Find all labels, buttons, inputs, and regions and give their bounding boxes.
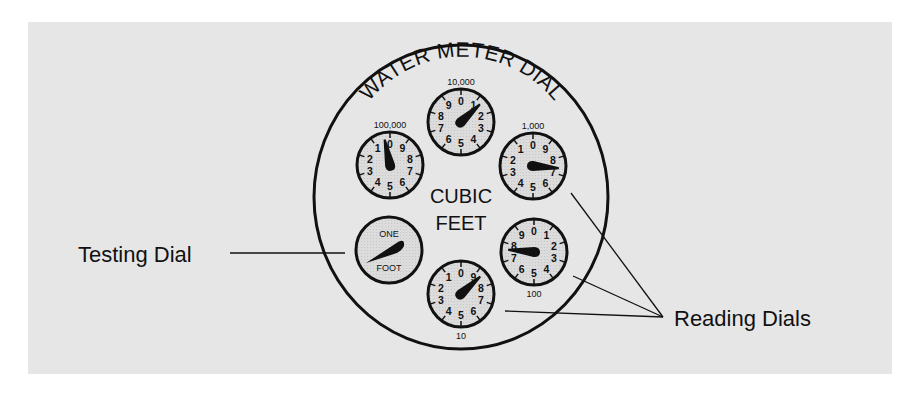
dial-digit: 2 — [551, 240, 557, 252]
dial-digit: 0 — [458, 267, 464, 279]
reading-dials-callout-label: Reading Dials — [674, 306, 811, 331]
dial-digit: 6 — [470, 305, 476, 317]
testing-dial-callout-label: Testing Dial — [78, 242, 192, 267]
dial-10000: 012345678910,000 — [428, 77, 494, 155]
reading-dials: 0123456789100,000012345678910,0000123456… — [357, 77, 567, 341]
dial-1000: 01234567891,000 — [500, 121, 566, 199]
dial-digit: 8 — [407, 153, 413, 165]
dial-digit: 9 — [399, 142, 405, 154]
dial-digit: 2 — [478, 110, 484, 122]
dial-digit: 1 — [518, 143, 524, 155]
dial-scale-label: 1,000 — [522, 121, 545, 131]
testing-dial-top-label: ONE — [379, 229, 399, 239]
dial-digit: 7 — [438, 122, 444, 134]
dial-digit: 6 — [519, 263, 525, 275]
dial-digit: 3 — [478, 122, 484, 134]
dial-digit: 5 — [387, 180, 393, 192]
dial-digit: 4 — [470, 133, 476, 145]
dial-digit: 8 — [550, 154, 556, 166]
reading-leader-10 — [505, 311, 663, 317]
dial-digit: 0 — [531, 225, 537, 237]
dial-digit: 4 — [446, 305, 452, 317]
dial-digit: 6 — [399, 176, 405, 188]
dial-100: 0123456789100 — [501, 219, 567, 299]
dial-digit: 6 — [542, 177, 548, 189]
dial-digit: 3 — [367, 165, 373, 177]
dial-digit: 7 — [511, 252, 517, 264]
dial-digit: 2 — [438, 282, 444, 294]
dial-digit: 2 — [510, 154, 516, 166]
dial-scale-label: 100,000 — [374, 120, 407, 130]
dial-digit: 6 — [446, 133, 452, 145]
dial-digit: 3 — [510, 166, 516, 178]
center-label-line1: CUBIC — [430, 185, 492, 207]
dial-digit: 1 — [446, 271, 452, 283]
dial-scale-label: 10,000 — [447, 77, 475, 87]
testing-dial: ONE FOOT — [356, 217, 422, 283]
dial-digit: 5 — [458, 137, 464, 149]
dial-digit: 9 — [446, 99, 452, 111]
dial-digit: 9 — [542, 143, 548, 155]
dial-100000: 0123456789100,000 — [357, 120, 423, 198]
dial-digit: 4 — [518, 177, 524, 189]
dial-digit: 8 — [478, 282, 484, 294]
dial-digit: 9 — [519, 229, 525, 241]
dial-scale-label: 100 — [526, 289, 541, 299]
dial-digit: 1 — [543, 229, 549, 241]
dial-digit: 5 — [458, 309, 464, 321]
dial-digit: 1 — [375, 142, 381, 154]
dial-digit: 5 — [530, 181, 536, 193]
dial-digit: 3 — [551, 252, 557, 264]
dial-scale-label: 10 — [456, 331, 466, 341]
dial-digit: 0 — [530, 139, 536, 151]
dial-digit: 3 — [438, 294, 444, 306]
center-label-line2: FEET — [435, 212, 486, 234]
dial-digit: 4 — [543, 263, 549, 275]
dial-10: 012345678910 — [428, 261, 494, 341]
reading-leader-100 — [573, 276, 663, 317]
dial-digit: 5 — [531, 267, 537, 279]
water-meter-diagram: WATER METER DIAL CUBIC FEET 012345678910… — [0, 0, 915, 393]
dial-digit: 2 — [367, 153, 373, 165]
dial-digit: 8 — [438, 110, 444, 122]
dial-digit: 0 — [458, 95, 464, 107]
testing-dial-bottom-label: FOOT — [377, 263, 402, 273]
reading-leader-1000 — [571, 193, 663, 317]
dial-digit: 7 — [407, 165, 413, 177]
dial-digit: 4 — [375, 176, 381, 188]
dial-digit: 7 — [478, 294, 484, 306]
